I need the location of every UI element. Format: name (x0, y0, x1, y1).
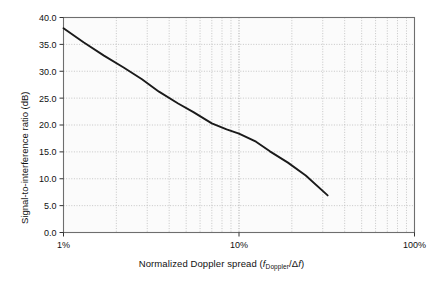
x-axis-ticks: 1%10%100% (57, 233, 426, 250)
x-axis-title-slash-delta: /Δ (289, 258, 298, 269)
y-axis-title-text: Signal-to-interference ratio (dB) (19, 91, 30, 224)
y-tick-label: 10.0 (39, 174, 57, 184)
y-tick-label: 25.0 (39, 94, 57, 104)
x-tick-label: 1% (57, 240, 70, 250)
x-tick-label: 10% (230, 240, 248, 250)
y-tick-label: 40.0 (39, 13, 57, 23)
chart-figure: 0.05.010.015.020.025.030.035.040.01%10%1… (0, 0, 443, 286)
y-tick-label: 5.0 (44, 201, 57, 211)
y-tick-label: 35.0 (39, 40, 57, 50)
x-axis-title-prefix: Normalized Doppler spread ( (139, 258, 263, 269)
y-axis-ticks: 0.05.010.015.020.025.030.035.040.0 (39, 13, 64, 238)
x-axis-title-suffix: ) (301, 258, 304, 269)
y-axis-title: Signal-to-interference ratio (dB) (19, 224, 152, 234)
x-axis-title-subscript: Doppler (266, 263, 289, 270)
x-tick-label: 100% (403, 240, 426, 250)
chart-plot-svg: 0.05.010.015.020.025.030.035.040.01%10%1… (0, 0, 443, 286)
y-tick-label: 15.0 (39, 147, 57, 157)
x-axis-title: Normalized Doppler spread (fDoppler/Δf) (0, 258, 443, 269)
y-tick-label: 30.0 (39, 67, 57, 77)
y-tick-label: 20.0 (39, 120, 57, 130)
